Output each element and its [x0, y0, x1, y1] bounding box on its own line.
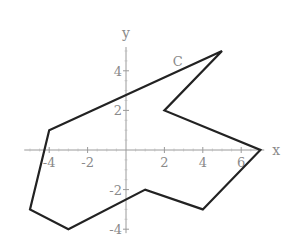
- y-tick-label: -2: [109, 183, 122, 198]
- curve-label-c: C: [173, 54, 183, 69]
- x-axis-label: x: [272, 142, 280, 158]
- y-tick-label: 4: [114, 64, 122, 79]
- axes: [24, 47, 264, 233]
- x-tick-label: -4: [43, 155, 56, 170]
- series: [30, 51, 260, 229]
- curve-c: [30, 51, 260, 229]
- x-tick-label: 2: [160, 155, 168, 170]
- y-axis-label: y: [121, 25, 130, 41]
- ticks: [30, 51, 260, 229]
- chart: -4-2246-4-224 x y C: [0, 0, 295, 251]
- y-tick-label: 2: [114, 103, 122, 118]
- x-tick-label: 4: [199, 155, 207, 170]
- y-tick-label: -4: [109, 222, 122, 237]
- x-tick-label: -2: [81, 155, 94, 170]
